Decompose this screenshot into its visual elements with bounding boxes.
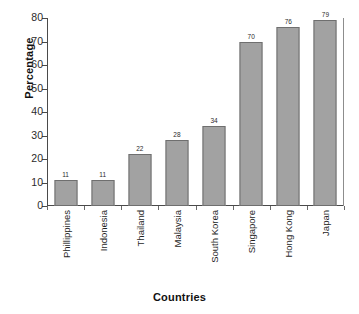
bars-layer: 1111222834707679 xyxy=(47,18,344,206)
bar-slot: 79 xyxy=(307,18,344,206)
bar-slot: 76 xyxy=(270,18,307,206)
x-axis-category-labels: PhillippinesIndonesiaThailandMalaysiaSou… xyxy=(47,210,344,288)
bar[interactable] xyxy=(240,42,263,207)
bar[interactable] xyxy=(203,126,226,206)
x-axis-label-slot: Phillippines xyxy=(47,210,84,288)
x-axis-category-label: Singapore xyxy=(246,210,257,253)
bar[interactable] xyxy=(91,180,114,206)
bar[interactable] xyxy=(54,180,77,206)
bar-value-label: 28 xyxy=(173,131,180,139)
x-axis-label-slot: Hong Kong xyxy=(270,210,307,288)
bar-value-label: 34 xyxy=(210,117,217,125)
x-axis-category-label: Malaysia xyxy=(171,210,182,248)
y-axis-tick-label: 20 xyxy=(31,152,43,165)
bar-chart: Percentage 01020304050607080 11112228347… xyxy=(0,0,359,314)
y-axis-tick-label: 40 xyxy=(31,105,43,118)
bar[interactable] xyxy=(128,154,151,206)
bar-slot: 28 xyxy=(158,18,195,206)
bar-value-label: 76 xyxy=(285,18,292,26)
y-axis-tick-label: 10 xyxy=(31,176,43,189)
x-axis-category-label: Phillippines xyxy=(60,210,71,258)
plot-area: 01020304050607080 1111222834707679 xyxy=(47,18,344,206)
x-axis-title: Countries xyxy=(0,291,359,303)
bar[interactable] xyxy=(314,20,337,206)
x-axis-category-label: South Korea xyxy=(209,210,220,263)
y-axis-tick-label: 30 xyxy=(31,129,43,142)
x-axis-category-label: Indonesia xyxy=(97,210,108,251)
x-axis-category-label: Japan xyxy=(320,210,331,236)
bar-value-label: 11 xyxy=(62,171,69,179)
bar-value-label: 79 xyxy=(322,11,329,19)
x-axis-label-slot: Japan xyxy=(307,210,344,288)
bar-slot: 11 xyxy=(47,18,84,206)
bar-value-label: 70 xyxy=(248,33,255,41)
bar-slot: 22 xyxy=(121,18,158,206)
y-axis-tick-label: 80 xyxy=(31,11,43,24)
x-axis-category-label: Hong Kong xyxy=(283,210,294,258)
x-axis-label-slot: Thailand xyxy=(121,210,158,288)
bar-slot: 70 xyxy=(233,18,270,206)
bar[interactable] xyxy=(277,27,300,206)
y-axis-tick-label: 50 xyxy=(31,82,43,95)
y-axis-tick-label: 60 xyxy=(31,58,43,71)
bar-slot: 11 xyxy=(84,18,121,206)
x-axis-label-slot: Singapore xyxy=(233,210,270,288)
x-axis-label-slot: South Korea xyxy=(196,210,233,288)
bar-value-label: 11 xyxy=(99,171,106,179)
bar[interactable] xyxy=(165,140,188,206)
x-axis-label-slot: Malaysia xyxy=(158,210,195,288)
y-axis-tick-label: 70 xyxy=(31,35,43,48)
y-axis-tick-label: 0 xyxy=(37,199,43,212)
bar-value-label: 22 xyxy=(136,145,143,153)
bar-slot: 34 xyxy=(196,18,233,206)
x-axis-tick-mark xyxy=(344,206,345,210)
x-axis-label-slot: Indonesia xyxy=(84,210,121,288)
x-axis-category-label: Thailand xyxy=(134,210,145,246)
